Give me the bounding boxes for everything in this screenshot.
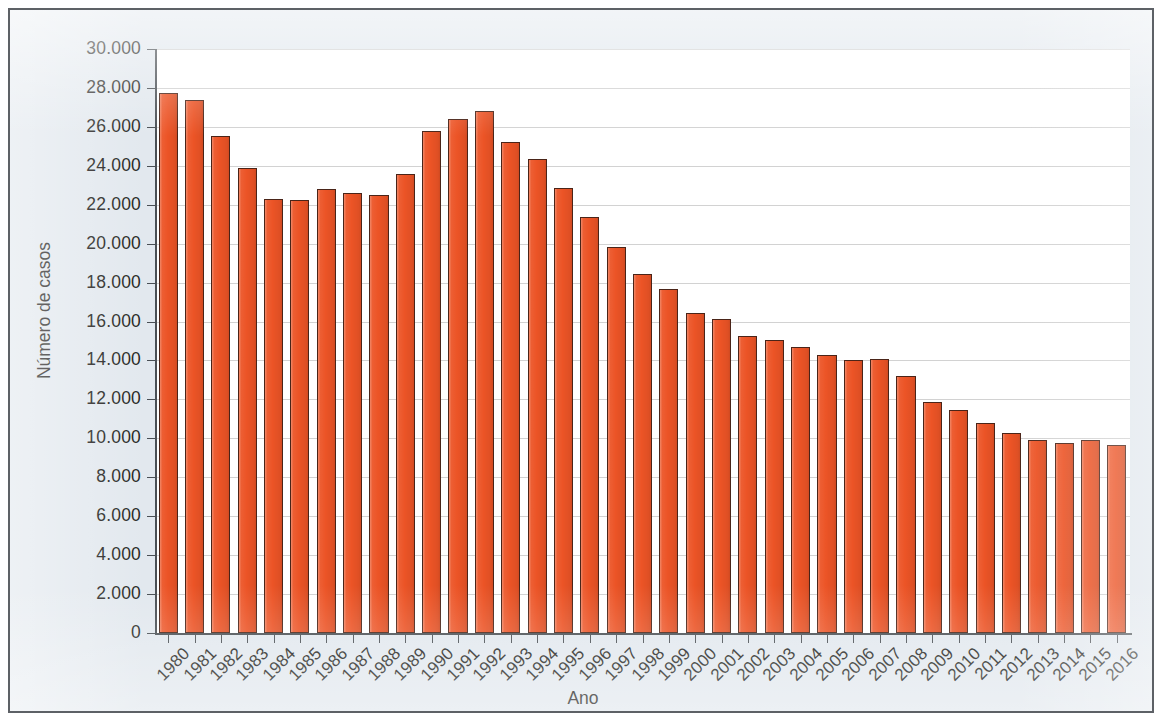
x-tick-mark — [932, 635, 933, 643]
bar — [238, 168, 257, 633]
x-tick-mark — [1011, 635, 1012, 643]
y-tick-label: 4.000 — [21, 544, 141, 565]
bar — [896, 376, 915, 633]
x-tick-mark — [643, 635, 644, 643]
gridline — [155, 166, 1130, 167]
bar — [317, 189, 336, 633]
x-tick-mark — [353, 635, 354, 643]
x-tick-mark — [274, 635, 275, 643]
x-tick-mark — [959, 635, 960, 643]
x-tick-mark — [300, 635, 301, 643]
bar — [264, 199, 283, 633]
x-tick-mark — [1064, 635, 1065, 643]
bar — [870, 359, 889, 633]
x-tick-mark — [774, 635, 775, 643]
x-tick-mark — [748, 635, 749, 643]
bar — [343, 193, 362, 633]
bar — [712, 319, 731, 633]
bar — [976, 423, 995, 633]
bar — [396, 174, 415, 633]
x-tick-mark — [405, 635, 406, 643]
x-tick-mark — [458, 635, 459, 643]
y-tick-label: 8.000 — [21, 466, 141, 487]
x-tick-mark — [827, 635, 828, 643]
bar — [422, 131, 441, 633]
bar — [501, 142, 520, 633]
x-tick-mark — [484, 635, 485, 643]
x-tick-mark — [722, 635, 723, 643]
bar — [686, 313, 705, 633]
bar — [633, 274, 652, 633]
x-tick-mark — [1117, 635, 1118, 643]
gridline — [155, 127, 1130, 128]
x-tick-mark — [590, 635, 591, 643]
x-tick-mark — [432, 635, 433, 643]
x-tick-mark — [695, 635, 696, 643]
bar-chart: 02.0004.0006.0008.00010.00012.00014.0001… — [10, 10, 1156, 715]
bar — [1002, 433, 1021, 633]
bar — [1107, 445, 1126, 633]
x-tick-mark — [511, 635, 512, 643]
bar — [844, 360, 863, 633]
x-tick-mark — [1038, 635, 1039, 643]
bar — [738, 336, 757, 633]
y-tick-label: 28.000 — [21, 77, 141, 98]
x-tick-mark — [616, 635, 617, 643]
x-tick-mark — [880, 635, 881, 643]
bar — [817, 355, 836, 633]
y-tick-label: 24.000 — [21, 155, 141, 176]
y-tick-label: 30.000 — [21, 38, 141, 59]
x-tick-mark — [221, 635, 222, 643]
bar — [580, 217, 599, 633]
x-tick-mark — [247, 635, 248, 643]
x-tick-mark — [801, 635, 802, 643]
y-axis-labels: 02.0004.0006.0008.00010.00012.00014.0001… — [10, 10, 141, 715]
x-axis-title: Ano — [10, 688, 1156, 709]
y-axis-title: Número de casos — [34, 181, 55, 441]
x-tick-mark — [669, 635, 670, 643]
y-tick-label: 6.000 — [21, 505, 141, 526]
x-tick-mark — [537, 635, 538, 643]
bar — [475, 111, 494, 633]
bar — [290, 200, 309, 633]
bar — [369, 195, 388, 633]
x-tick-mark — [563, 635, 564, 643]
bar — [448, 119, 467, 633]
x-tick-mark — [326, 635, 327, 643]
bar — [607, 247, 626, 633]
x-tick-mark — [195, 635, 196, 643]
bar — [159, 93, 178, 633]
y-tick-label: 2.000 — [21, 583, 141, 604]
bar — [1055, 443, 1074, 633]
y-axis-line — [155, 49, 157, 634]
bar — [923, 402, 942, 633]
bar — [528, 159, 547, 633]
bar — [791, 347, 810, 633]
gridline — [155, 88, 1130, 89]
bar — [1028, 440, 1047, 633]
bar — [185, 100, 204, 633]
bar — [765, 340, 784, 633]
figure-frame: 02.0004.0006.0008.00010.00012.00014.0001… — [8, 8, 1154, 713]
x-tick-mark — [379, 635, 380, 643]
x-tick-mark — [906, 635, 907, 643]
scanned-page: 02.0004.0006.0008.00010.00012.00014.0001… — [0, 0, 1162, 721]
bar — [949, 410, 968, 633]
y-tick-label: 0 — [21, 622, 141, 643]
bar — [659, 289, 678, 633]
bar — [1081, 440, 1100, 633]
bar — [554, 188, 573, 633]
x-tick-mark — [853, 635, 854, 643]
x-tick-mark — [168, 635, 169, 643]
bar — [211, 136, 230, 633]
x-tick-mark — [1090, 635, 1091, 643]
x-tick-mark — [985, 635, 986, 643]
gridline — [155, 49, 1130, 50]
y-tick-label: 26.000 — [21, 116, 141, 137]
